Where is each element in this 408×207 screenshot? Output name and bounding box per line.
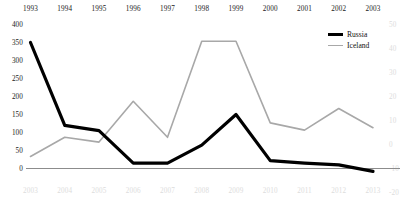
legend: Russia Iceland bbox=[328, 29, 369, 51]
legend-label-russia: Russia bbox=[347, 30, 367, 39]
legend-label-iceland: Iceland bbox=[347, 41, 369, 50]
legend-item-iceland: Iceland bbox=[328, 40, 369, 51]
legend-swatch-russia-icon bbox=[328, 33, 343, 36]
series-line-iceland bbox=[31, 41, 374, 156]
line-chart: 1993199419951996199719981999200020012002… bbox=[0, 0, 408, 207]
legend-item-russia: Russia bbox=[328, 29, 369, 40]
legend-swatch-iceland-icon bbox=[328, 45, 343, 47]
series-line-russia bbox=[31, 43, 374, 172]
